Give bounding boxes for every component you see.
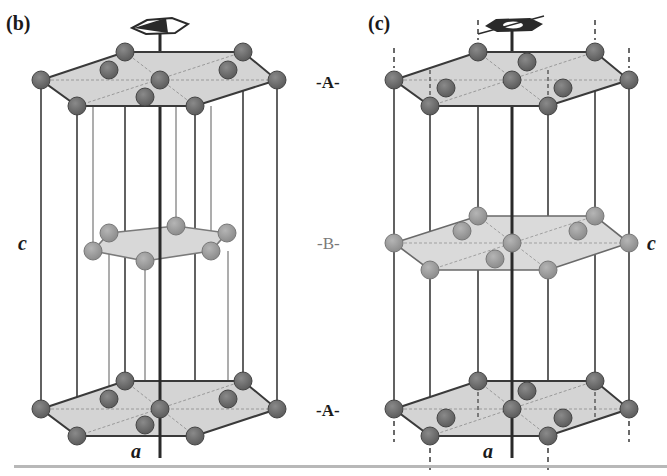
panel-c-bottom-center-atom — [503, 400, 521, 418]
hcp-figure: (b) (c) -A- -B- -A- c c a a — [0, 0, 667, 476]
layer-label-bottom-a: -A- — [316, 401, 340, 421]
layer-label-middle-b: -B- — [317, 234, 340, 254]
panel-b-a-axis-label: a — [131, 440, 141, 463]
panel-b-label: (b) — [6, 12, 30, 35]
screw-axis-symbol-c-icon — [478, 16, 544, 34]
panel-c-a-axis-label: a — [483, 440, 493, 463]
panel-b-top-plane — [32, 43, 286, 115]
layer-label-top-a: -A- — [316, 73, 340, 93]
screw-axis-symbol-b-icon — [132, 18, 188, 34]
panel-c-c-axis-label: c — [647, 232, 656, 255]
panel-b-c-axis-label: c — [18, 232, 27, 255]
panel-c-label: (c) — [368, 12, 390, 35]
panel-b-bottom-center-atom — [151, 400, 169, 418]
bottom-divider — [14, 465, 667, 468]
panel-b — [32, 18, 286, 458]
panel-c-top-plane — [385, 43, 638, 115]
panel-c-middle-center-atom — [503, 234, 521, 252]
panel-c — [385, 16, 638, 470]
